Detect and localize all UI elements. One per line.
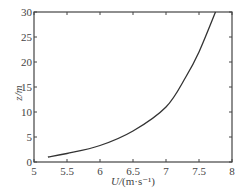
y-axis-label: z/m bbox=[12, 85, 24, 101]
x-tick-label: 7.5 bbox=[192, 165, 206, 177]
y-tick-label: 20 bbox=[21, 56, 33, 68]
x-tick-label: 8 bbox=[229, 165, 235, 177]
chart: 051015202530 55.566.577.58 z/m U/(m·s⁻¹) bbox=[0, 0, 247, 189]
x-tick-label: 6 bbox=[97, 165, 103, 177]
y-tick-label: 25 bbox=[21, 31, 33, 43]
y-tick-label: 5 bbox=[27, 131, 33, 143]
y-axis-ticks: 051015202530 bbox=[21, 6, 232, 168]
y-tick-label: 30 bbox=[21, 6, 33, 18]
x-axis-ticks: 55.566.577.58 bbox=[31, 12, 235, 177]
plot-frame bbox=[34, 12, 232, 162]
data-line bbox=[48, 12, 216, 157]
y-tick-label: 10 bbox=[21, 106, 33, 118]
x-axis-label: U/(m·s⁻¹) bbox=[111, 175, 155, 188]
x-tick-label: 5 bbox=[31, 165, 37, 177]
x-tick-label: 7 bbox=[163, 165, 169, 177]
x-tick-label: 5.5 bbox=[60, 165, 74, 177]
